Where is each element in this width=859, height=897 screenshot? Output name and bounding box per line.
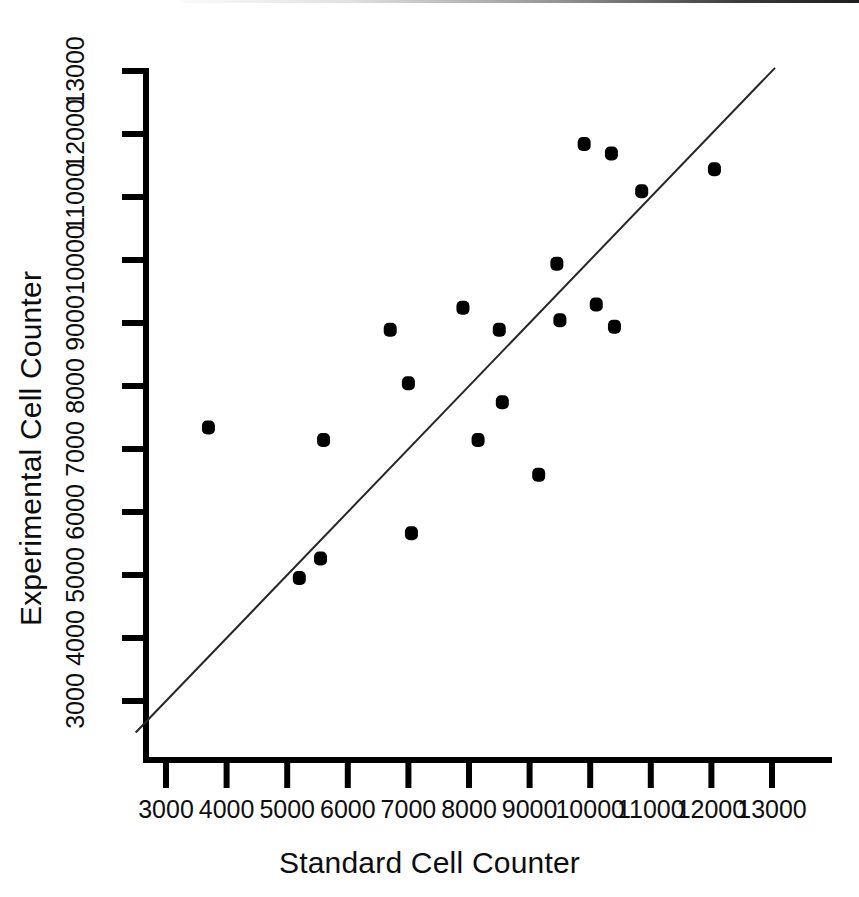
identity-reference-line: [136, 68, 775, 733]
data-point: [590, 298, 603, 312]
data-point: [293, 571, 306, 585]
data-point: [608, 320, 621, 334]
x-axis-title: Standard Cell Counter: [0, 846, 859, 880]
data-point: [553, 313, 566, 327]
data-point: [493, 323, 506, 337]
data-point: [472, 433, 485, 447]
data-point: [384, 323, 397, 337]
scatter-plot-figure: 3000400050006000700080009000100001100012…: [0, 0, 859, 897]
plot-canvas: [0, 0, 859, 897]
data-point: [635, 184, 648, 198]
y-axis-tick-label: 13000: [59, 21, 91, 121]
y-axis-title: Experimental Cell Counter: [0, 0, 62, 897]
data-point: [550, 257, 563, 271]
data-point: [578, 137, 591, 151]
axis-lines: [143, 68, 832, 762]
x-axis-tick-label: 13000: [712, 795, 832, 824]
data-point: [317, 433, 330, 447]
data-point: [402, 376, 415, 390]
data-point: [708, 162, 721, 176]
data-point: [202, 420, 215, 434]
data-point: [532, 468, 545, 482]
data-point: [456, 301, 469, 315]
data-point: [314, 551, 327, 565]
data-point: [496, 395, 509, 409]
data-point: [605, 146, 618, 160]
data-point: [405, 526, 418, 540]
identity-line: [136, 68, 775, 733]
